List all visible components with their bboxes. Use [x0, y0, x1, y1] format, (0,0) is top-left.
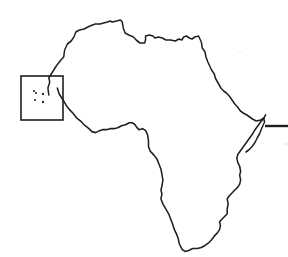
inset-frame — [21, 76, 63, 120]
island — [42, 93, 44, 95]
africa-map — [0, 0, 288, 257]
speck — [239, 51, 240, 52]
islands-inset — [21, 76, 63, 120]
island — [33, 90, 35, 92]
speck — [285, 143, 287, 145]
island — [35, 92, 37, 94]
island — [34, 99, 36, 101]
island — [42, 101, 44, 103]
africa-outline-coast — [57, 88, 265, 251]
africa-outline — [48, 20, 265, 152]
